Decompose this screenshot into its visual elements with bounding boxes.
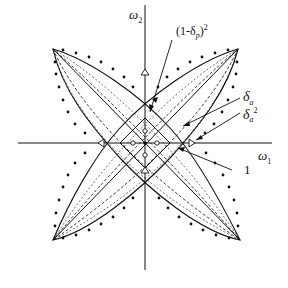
triangle-left [98,139,104,147]
w2-axis-label: ω2 [129,8,142,25]
label-delta-a: δa [243,90,254,107]
frequency-response-diagram [0,0,288,288]
triangle-top [141,69,149,75]
triangle-markers [98,69,195,173]
triangle-bottom [141,167,149,173]
origin-point [143,141,147,145]
label-passband-edge: (1-δp)2 [176,24,208,40]
w1-axis-label: ω1 [258,149,271,166]
label-delta-a-squared: δa2 [243,107,258,124]
label-unity: 1 [244,163,251,176]
triangle-right [189,139,195,147]
